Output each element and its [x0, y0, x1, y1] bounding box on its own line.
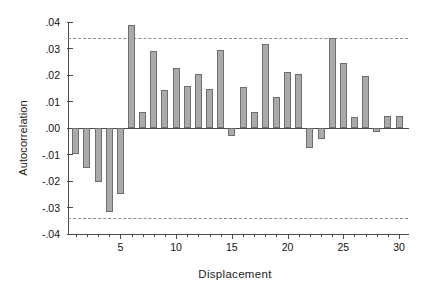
x-tick-minor-2	[87, 234, 88, 237]
x-axis-title: Displacement	[60, 268, 410, 280]
y-axis-title: Autocorrelation	[17, 63, 29, 213]
x-tick-minor-21	[299, 234, 300, 237]
x-tick-minor-1	[76, 234, 77, 237]
x-tick-minor-18	[265, 234, 266, 237]
x-tick-minor-9	[165, 234, 166, 237]
upper-confidence-bound	[68, 38, 408, 39]
bar-lag-28	[373, 128, 380, 132]
y-tick-_02: .02	[28, 69, 68, 81]
bar-lag-18	[262, 44, 269, 128]
x-tick-label-15: 15	[217, 241, 247, 253]
bar-lag-22	[306, 128, 313, 148]
x-tick-major-20	[288, 234, 289, 239]
y-tick-_04: .04	[28, 16, 68, 28]
bar-lag-19	[273, 97, 280, 128]
bar-lag-26	[351, 117, 358, 128]
x-tick-minor-27	[366, 234, 367, 237]
y-tick-mark	[67, 101, 73, 102]
bar-lag-6	[128, 25, 135, 128]
y-tick-mark	[67, 154, 73, 155]
bar-lag-15	[228, 128, 235, 136]
bar-lag-27	[362, 76, 369, 128]
y-tick-label: -.01	[42, 149, 60, 161]
x-tick-minor-28	[377, 234, 378, 237]
bar-lag-1	[72, 128, 79, 154]
bar-lag-8	[150, 51, 157, 128]
bar-lag-12	[195, 74, 202, 128]
y-tick-mark	[67, 181, 73, 182]
y-tick-__03: -.03	[28, 202, 68, 214]
bar-lag-17	[251, 112, 258, 128]
y-tick-label: -.04	[42, 228, 60, 240]
x-tick-minor-7	[143, 234, 144, 237]
y-tick-mark	[67, 48, 73, 49]
y-tick-label: .02	[45, 69, 60, 81]
x-tick-major-30	[399, 234, 400, 239]
bar-lag-20	[284, 72, 291, 128]
bar-lag-4	[106, 128, 113, 212]
bar-lag-7	[139, 112, 146, 128]
y-tick-__01: -.01	[28, 149, 68, 161]
bar-lag-29	[384, 116, 391, 128]
bar-lag-5	[117, 128, 124, 194]
x-tick-label-5: 5	[105, 241, 135, 253]
x-tick-minor-19	[276, 234, 277, 237]
bar-lag-14	[217, 50, 224, 128]
x-tick-label-10: 10	[161, 241, 191, 253]
bar-lag-2	[83, 128, 90, 168]
y-tick-label: -.03	[42, 202, 60, 214]
bar-lag-16	[240, 87, 247, 128]
y-tick-_03: .03	[28, 43, 68, 55]
y-tick-_01: .01	[28, 96, 68, 108]
x-tick-major-10	[176, 234, 177, 239]
y-tick-mark	[67, 234, 73, 235]
x-tick-minor-11	[187, 234, 188, 237]
x-tick-minor-6	[132, 234, 133, 237]
x-tick-minor-8	[154, 234, 155, 237]
lower-confidence-bound	[68, 218, 408, 219]
x-tick-minor-29	[388, 234, 389, 237]
bar-lag-23	[318, 128, 325, 139]
x-tick-minor-14	[221, 234, 222, 237]
x-axis-line	[68, 234, 409, 235]
bar-lag-3	[95, 128, 102, 182]
x-tick-minor-4	[109, 234, 110, 237]
bar-lag-25	[340, 63, 347, 128]
bar-lag-10	[173, 68, 180, 128]
y-tick-_00: .00	[28, 122, 68, 134]
y-tick-label: .04	[45, 16, 60, 28]
x-tick-minor-17	[254, 234, 255, 237]
bar-lag-13	[206, 89, 213, 128]
y-tick-label: .00	[45, 122, 60, 134]
x-tick-major-5	[120, 234, 121, 239]
y-tick-label: .03	[45, 43, 60, 55]
y-tick-mark	[67, 75, 73, 76]
bar-lag-11	[184, 86, 191, 128]
x-tick-minor-13	[210, 234, 211, 237]
y-tick-__02: -.02	[28, 175, 68, 187]
x-tick-minor-26	[354, 234, 355, 237]
x-tick-minor-23	[321, 234, 322, 237]
x-tick-major-25	[343, 234, 344, 239]
autocorrelation-chart: Autocorrelation .04.03.02.01.00-.01-.02-…	[0, 0, 431, 291]
x-tick-major-15	[232, 234, 233, 239]
x-tick-label-20: 20	[273, 241, 303, 253]
x-tick-minor-3	[98, 234, 99, 237]
y-tick-mark	[67, 22, 73, 23]
x-tick-minor-22	[310, 234, 311, 237]
x-tick-label-30: 30	[384, 241, 414, 253]
bar-lag-24	[329, 38, 336, 128]
y-tick-label: -.02	[42, 175, 60, 187]
y-tick-__04: -.04	[28, 228, 68, 240]
y-tick-label: .01	[45, 96, 60, 108]
x-tick-minor-24	[332, 234, 333, 237]
x-tick-label-25: 25	[328, 241, 358, 253]
y-tick-mark	[67, 207, 73, 208]
bar-lag-30	[396, 116, 403, 128]
plot-area: .04.03.02.01.00-.01-.02-.03-.04 51015202…	[68, 22, 408, 234]
x-tick-minor-12	[198, 234, 199, 237]
bar-lag-9	[161, 90, 168, 128]
x-tick-minor-16	[243, 234, 244, 237]
bar-lag-21	[295, 74, 302, 128]
